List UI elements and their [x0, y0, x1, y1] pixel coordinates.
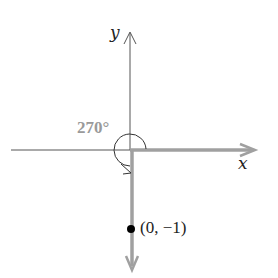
diagram-canvas — [0, 0, 278, 278]
angle-label: 270° — [77, 118, 109, 138]
point-marker — [127, 225, 135, 233]
unit-circle-angle-diagram: y x 270° (0, −1) — [0, 0, 278, 278]
x-axis-label: x — [238, 153, 248, 173]
point-label: (0, −1) — [140, 218, 186, 238]
y-axis-label: y — [110, 22, 120, 42]
